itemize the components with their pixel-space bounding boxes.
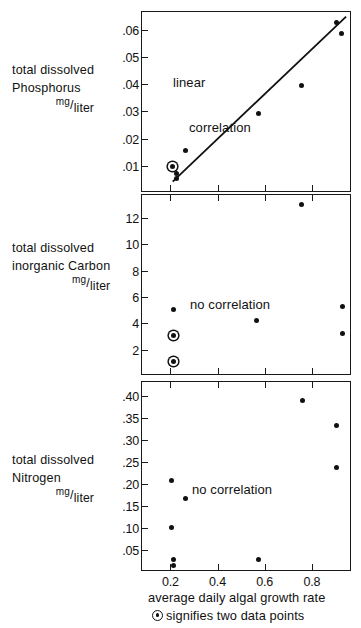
y-axis-tick-label: .20 xyxy=(122,478,139,492)
x-axis-tick-label: 0.2 xyxy=(162,575,179,589)
y-axis-tick: .05 xyxy=(142,550,148,551)
units-numerator: mg xyxy=(72,274,86,285)
x-axis-tick-label: 0.8 xyxy=(304,575,321,589)
x-axis-title: average daily algal growth rate xyxy=(148,590,325,605)
x-axis-tick xyxy=(218,195,219,201)
data-point xyxy=(171,557,176,562)
y-axis-tick: .05 xyxy=(142,57,148,58)
data-point xyxy=(183,496,188,501)
data-point xyxy=(340,304,345,309)
x-axis-tick xyxy=(170,382,171,388)
annotation-line: no correlation xyxy=(190,297,270,312)
y-axis-tick: .06 xyxy=(142,30,148,31)
y-axis-tick: .35 xyxy=(142,418,148,419)
label-line: total dissolved xyxy=(12,62,94,80)
y-axis-tick-label: 2 xyxy=(132,343,139,357)
y-axis-tick-label: .01 xyxy=(122,160,139,174)
y-axis-tick-label: .30 xyxy=(122,434,139,448)
plot-area-carbon: no correlation 12108642 xyxy=(142,195,350,374)
units-numerator: mg xyxy=(56,486,70,497)
data-point xyxy=(300,398,305,403)
plot-area-phosphorus: linear correlation .06.05.04.03.02.01 xyxy=(142,12,350,191)
data-point xyxy=(171,563,176,568)
x-axis-tick xyxy=(312,564,313,570)
caption-text: signifies two data points xyxy=(166,608,304,623)
x-axis-tick-label: 0.4 xyxy=(209,575,226,589)
data-point xyxy=(171,307,176,312)
x-axis-tick xyxy=(218,368,219,374)
annotation-carbon: no correlation xyxy=(190,267,270,342)
y-axis-tick: .20 xyxy=(142,484,148,485)
data-point xyxy=(299,202,304,207)
figure-root: total dissolved Phosphorus mg/liter line… xyxy=(0,0,361,628)
y-axis-tick: 8 xyxy=(142,271,148,272)
label-units: mg/liter xyxy=(12,275,110,293)
units-denominator: liter xyxy=(90,279,110,293)
label-line: Phosphorus xyxy=(12,80,94,98)
label-line: inorganic Carbon xyxy=(12,258,110,276)
y-axis-tick-label: .35 xyxy=(122,412,139,426)
x-axis-tick xyxy=(312,368,313,374)
x-axis-tick xyxy=(265,185,266,191)
units-denominator: liter xyxy=(74,491,94,505)
plot-area-nitrogen: no correlation .40.35.30.25.20.15.10.050… xyxy=(142,382,350,570)
y-axis-tick-label: .15 xyxy=(122,500,139,514)
units-denominator: liter xyxy=(74,101,94,115)
label-units: mg/liter xyxy=(12,97,94,115)
y-axis-tick: .01 xyxy=(142,166,148,167)
y-axis-tick: .40 xyxy=(142,396,148,397)
x-axis-tick xyxy=(170,185,171,191)
y-axis-tick-label: 6 xyxy=(132,291,139,305)
annotation-line: no correlation xyxy=(192,482,272,497)
y-axis-tick-label: .05 xyxy=(122,51,139,65)
y-axis-tick-label: .06 xyxy=(122,23,139,37)
x-axis-tick xyxy=(265,195,266,201)
y-axis-tick-label: .10 xyxy=(122,522,139,536)
y-axis-tick-label: 12 xyxy=(125,212,139,226)
y-axis-tick: 4 xyxy=(142,323,148,324)
y-axis-tick-label: .40 xyxy=(122,390,139,404)
x-axis-tick xyxy=(218,382,219,388)
y-axis-label-phosphorus: total dissolved Phosphorus mg/liter xyxy=(12,62,94,115)
circled-dot-icon xyxy=(152,610,163,621)
y-axis-tick-label: 8 xyxy=(132,264,139,278)
x-axis-tick xyxy=(312,185,313,191)
y-axis-label-nitrogen: total dissolved Nitrogen mg/liter xyxy=(12,452,94,505)
label-line: Nitrogen xyxy=(12,470,94,488)
y-axis-tick: .30 xyxy=(142,440,148,441)
y-axis-tick-label: 10 xyxy=(125,238,139,252)
y-axis-tick: .02 xyxy=(142,139,148,140)
x-axis-tick xyxy=(170,195,171,201)
data-point-double xyxy=(171,359,176,364)
x-axis-tick-label: 0.6 xyxy=(256,575,273,589)
y-axis-tick-label: .05 xyxy=(122,544,139,558)
data-point xyxy=(174,171,179,176)
y-axis-tick: 6 xyxy=(142,297,148,298)
y-axis-label-carbon: total dissolved inorganic Carbon mg/lite… xyxy=(12,240,110,293)
panel-phosphorus: linear correlation .06.05.04.03.02.01 xyxy=(141,11,351,192)
label-line: total dissolved xyxy=(12,452,94,470)
y-axis-tick: .03 xyxy=(142,111,148,112)
data-point xyxy=(169,525,174,530)
data-point xyxy=(340,331,345,336)
y-axis-tick: 10 xyxy=(142,244,148,245)
y-axis-tick: .10 xyxy=(142,528,148,529)
y-axis-tick: .15 xyxy=(142,506,148,507)
y-axis-tick-label: 4 xyxy=(132,317,139,331)
annotation-nitrogen: no correlation xyxy=(192,452,272,527)
y-axis-tick-label: .02 xyxy=(122,132,139,146)
y-axis-tick-label: .03 xyxy=(122,105,139,119)
x-axis-tick xyxy=(265,382,266,388)
panel-nitrogen: no correlation .40.35.30.25.20.15.10.050… xyxy=(141,381,351,571)
y-axis-tick: .04 xyxy=(142,84,148,85)
panel-carbon: no correlation 12108642 xyxy=(141,194,351,375)
data-point xyxy=(339,31,344,36)
x-axis-tick xyxy=(312,382,313,388)
x-axis-tick xyxy=(218,564,219,570)
x-axis-tick xyxy=(265,564,266,570)
y-axis-tick-label: .04 xyxy=(122,78,139,92)
data-point-double xyxy=(170,164,175,169)
y-axis-tick: 12 xyxy=(142,218,148,219)
units-numerator: mg xyxy=(56,96,70,107)
label-units: mg/liter xyxy=(12,487,94,505)
